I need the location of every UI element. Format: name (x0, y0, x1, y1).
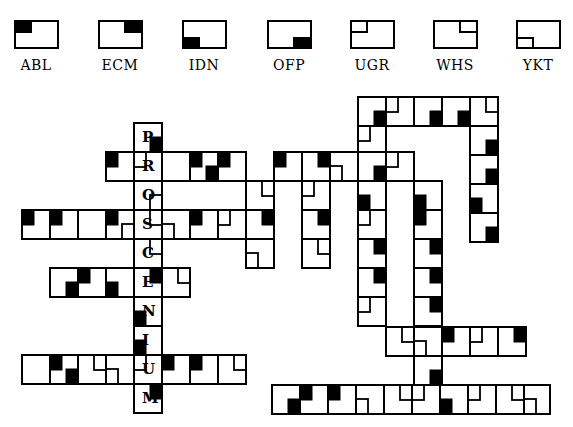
grid-cell[interactable] (386, 327, 414, 356)
keyword-cell-m[interactable]: M (134, 384, 162, 413)
grid-cell[interactable] (78, 355, 106, 384)
grid-cell[interactable] (442, 327, 470, 356)
keyword-cell-c[interactable]: C (134, 239, 162, 268)
grid-cell[interactable] (50, 268, 78, 297)
grid-cell[interactable] (414, 356, 442, 385)
keyword-cell-r[interactable]: R (134, 152, 162, 181)
grid-cell[interactable] (190, 152, 218, 181)
corner-filled-tl-icon (106, 152, 118, 167)
grid-cell[interactable] (162, 355, 190, 384)
grid-cell[interactable] (274, 152, 302, 181)
grid-cell[interactable] (162, 268, 190, 297)
grid-cell[interactable] (106, 268, 134, 297)
grid-cell[interactable] (358, 239, 386, 268)
grid-cell[interactable] (414, 297, 442, 326)
grid-cell[interactable] (106, 152, 134, 181)
grid-cell[interactable] (356, 385, 384, 414)
grid-cell[interactable] (78, 268, 106, 297)
grid-cell[interactable] (414, 210, 442, 239)
corner-filled-tr-icon (514, 327, 526, 342)
corner-filled-br-icon (374, 166, 386, 181)
grid-cell[interactable] (190, 210, 218, 239)
grid-cell[interactable] (106, 355, 134, 384)
corner-filled-tl-icon (442, 327, 454, 342)
grid-cell[interactable] (442, 97, 470, 126)
grid-cell[interactable] (246, 181, 274, 210)
corner-filled-br-icon (66, 282, 78, 297)
corner-filled-br-icon (430, 370, 442, 385)
corner-filled-br-icon (66, 369, 78, 384)
grid-cell[interactable] (358, 210, 386, 239)
grid-cell[interactable] (386, 152, 414, 181)
grid-cell[interactable] (302, 239, 330, 268)
corner-filled-tr-icon (430, 268, 442, 283)
corner-filled-tl-icon (328, 385, 340, 400)
grid-cell[interactable] (302, 152, 330, 181)
grid-cell[interactable] (414, 239, 442, 268)
corner-filled-tr-icon (430, 297, 442, 312)
grid-cell[interactable] (470, 327, 498, 356)
grid-cell[interactable] (330, 152, 358, 181)
corner-filled-br-icon (374, 111, 386, 126)
grid-cell[interactable] (218, 355, 246, 384)
keyword-cell-s[interactable]: S (134, 210, 162, 239)
grid-cell[interactable] (162, 152, 190, 181)
grid-cell[interactable] (218, 152, 246, 181)
grid-cell[interactable] (22, 210, 50, 239)
grid-cell[interactable] (468, 385, 496, 414)
grid-cell[interactable] (412, 385, 440, 414)
keyword-cell-n[interactable]: N (134, 297, 162, 326)
grid-cell[interactable] (470, 213, 498, 242)
grid-cell[interactable] (414, 181, 442, 210)
cell-letter: R (142, 157, 155, 175)
grid-cell[interactable] (302, 210, 330, 239)
grid-cell[interactable] (106, 210, 134, 239)
grid-cell[interactable] (414, 268, 442, 297)
grid-cell[interactable] (272, 385, 300, 414)
grid-cell[interactable] (470, 97, 498, 126)
grid-cell[interactable] (300, 385, 328, 414)
corner-filled-tl-icon (190, 355, 202, 370)
keyword-cell-i[interactable]: I (134, 326, 162, 355)
grid-cell[interactable] (78, 210, 106, 239)
keyword-cell-u[interactable]: U (134, 355, 162, 384)
grid-cell[interactable] (470, 126, 498, 155)
cell-letter: E (142, 273, 153, 291)
corner-filled-br-icon (486, 227, 498, 242)
keyword-cell-e[interactable]: E (134, 268, 162, 297)
grid-cell[interactable] (384, 385, 412, 414)
grid-cell[interactable] (498, 327, 526, 356)
grid-cell[interactable] (162, 210, 190, 239)
grid-cell[interactable] (50, 355, 78, 384)
grid-cell[interactable] (386, 97, 414, 126)
grid-cell[interactable] (302, 181, 330, 210)
grid-cell[interactable] (50, 210, 78, 239)
grid-cell[interactable] (524, 385, 550, 414)
corner-filled-br-icon (430, 111, 442, 126)
keyword-cell-p[interactable]: P (134, 123, 162, 152)
grid-cell[interactable] (440, 385, 468, 414)
keyword-cell-o[interactable]: O (134, 181, 162, 210)
cell-letter: P (142, 128, 153, 146)
grid-cell[interactable] (496, 385, 524, 414)
corner-filled-br-icon (486, 140, 498, 155)
grid-cell[interactable] (22, 355, 50, 384)
grid-cell[interactable] (470, 155, 498, 184)
grid-cell[interactable] (414, 327, 442, 356)
grid-cell[interactable] (358, 297, 386, 326)
corner-filled-br-icon (458, 111, 470, 126)
grid-cell[interactable] (358, 268, 386, 297)
grid-cell[interactable] (246, 239, 274, 268)
grid-cell[interactable] (246, 210, 274, 239)
grid-cell[interactable] (358, 152, 386, 181)
grid-cell[interactable] (358, 97, 386, 126)
grid-cell[interactable] (414, 97, 442, 126)
cell-letter: M (142, 389, 159, 407)
grid-cell[interactable] (190, 355, 218, 384)
grid-cell[interactable] (358, 181, 386, 210)
grid-cell[interactable] (470, 184, 498, 213)
grid-cell[interactable] (358, 126, 386, 152)
grid-cell[interactable] (328, 385, 356, 414)
corner-filled-tr-icon (374, 239, 386, 254)
grid-cell[interactable] (218, 210, 246, 239)
